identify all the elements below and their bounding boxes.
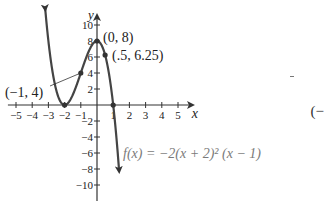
x-axis-label: x bbox=[191, 106, 199, 121]
y-tick-label: −2 bbox=[81, 115, 93, 127]
data-point bbox=[94, 38, 99, 43]
function-label: f(x) = −2(x + 2)² (x − 1) bbox=[123, 146, 261, 162]
annotation-0-8: (0, 8) bbox=[103, 30, 134, 46]
x-tick-label: 4 bbox=[159, 109, 165, 121]
x-tick-label: −4 bbox=[26, 109, 38, 121]
y-tick-label: −8 bbox=[81, 163, 93, 175]
y-tick-label: −6 bbox=[81, 147, 93, 159]
data-point bbox=[103, 52, 108, 57]
x-tick-label: −3 bbox=[43, 109, 55, 121]
function-graph: yx−5−4−3−2−112345108642−2−4−6−8−10 (0, 8… bbox=[0, 0, 324, 206]
x-tick-label: 5 bbox=[175, 109, 181, 121]
x-tick-label: −2 bbox=[59, 109, 71, 121]
annotation-0.5-6.25: (.5, 6.25) bbox=[112, 48, 164, 64]
annotation-labels: (0, 8)(.5, 6.25)(−1, 4)f(x) = −2(x + 2)²… bbox=[5, 30, 261, 162]
y-tick-label: −10 bbox=[76, 179, 94, 191]
side-text-fragment: (− bbox=[311, 103, 324, 120]
x-tick-label: −5 bbox=[10, 109, 22, 121]
y-tick-label: 2 bbox=[88, 83, 94, 95]
annotation-neg1-4: (−1, 4) bbox=[5, 85, 44, 101]
y-tick-label: −4 bbox=[81, 131, 93, 143]
x-tick-label: 3 bbox=[143, 109, 149, 121]
x-tick-label: 2 bbox=[127, 109, 133, 121]
y-tick-label: 4 bbox=[88, 67, 94, 79]
data-point bbox=[111, 102, 116, 107]
data-point bbox=[62, 102, 67, 107]
y-tick-label: 10 bbox=[82, 19, 94, 31]
stray-dash bbox=[290, 76, 294, 77]
